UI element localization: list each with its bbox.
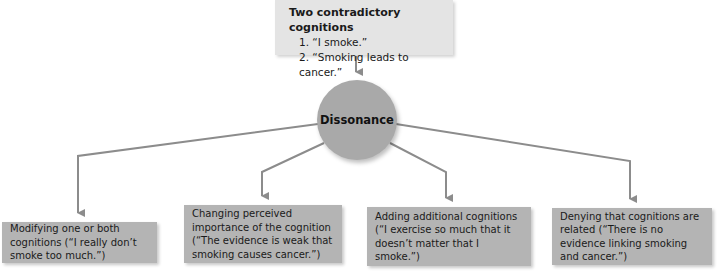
arrow-to-changing <box>262 143 324 196</box>
outcome-changing-importance-text: Changing perceived importance of the cog… <box>192 207 336 261</box>
dissonance-node: Dissonance <box>317 80 397 160</box>
top-box-title: Two contradictory cognitions <box>289 5 453 35</box>
outcome-denying-box: Denying that cognitions are related (“Th… <box>552 208 712 265</box>
outcome-modifying-box: Modifying one or both cognitions (“I rea… <box>2 222 157 263</box>
arrow-to-adding <box>390 143 446 198</box>
contradictory-cognitions-box: Two contradictory cognitions 1. “I smoke… <box>275 0 453 55</box>
outcome-changing-importance-box: Changing perceived importance of the cog… <box>184 205 342 263</box>
outcome-denying-text: Denying that cognitions are related (“Th… <box>560 210 706 264</box>
arrow-to-denying <box>396 124 630 199</box>
outcome-modifying-text: Modifying one or both cognitions (“I rea… <box>10 222 151 263</box>
outcome-adding-cognitions-text: Adding additional cognitions (“I exercis… <box>375 210 525 264</box>
cognition-item-1: 1. “I smoke.” <box>289 35 453 50</box>
dissonance-label: Dissonance <box>320 113 394 127</box>
arrow-to-modifying <box>78 124 318 213</box>
outcome-adding-cognitions-box: Adding additional cognitions (“I exercis… <box>367 207 531 266</box>
cognition-item-2: 2. “Smoking leads to cancer.” <box>289 50 453 80</box>
